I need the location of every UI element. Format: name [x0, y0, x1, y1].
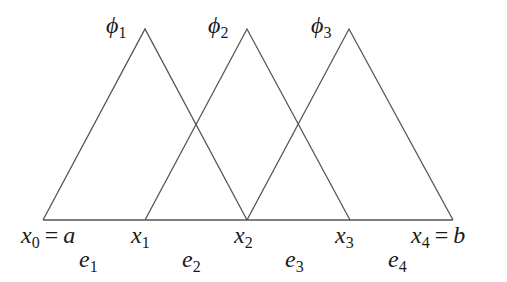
label-phi2: ϕ2: [208, 13, 228, 37]
e1-symbol: e: [79, 246, 90, 272]
x0-subscript: 0: [32, 234, 40, 251]
x0-value-a: a: [63, 222, 75, 248]
phi2-symbol: ϕ: [208, 12, 220, 38]
phi3-symbol: ϕ: [311, 12, 323, 38]
e4-symbol: e: [388, 246, 399, 272]
x4-subscript: 4: [422, 234, 430, 251]
x2-symbol: x: [234, 222, 245, 248]
hat-function-phi2: [145, 29, 350, 220]
x1-subscript: 1: [142, 234, 150, 251]
x0-symbol: x: [21, 222, 32, 248]
x4-value-b: b: [453, 222, 465, 248]
label-phi3: ϕ3: [311, 13, 331, 37]
phi1-subscript: 1: [118, 24, 126, 41]
x0-equals: =: [45, 222, 59, 248]
x3-subscript: 3: [346, 234, 354, 251]
x2-subscript: 2: [245, 234, 253, 251]
hat-function-phi3: [247, 29, 453, 220]
x4-symbol: x: [411, 222, 422, 248]
label-e1: e1: [79, 247, 98, 271]
label-x3: x3: [335, 223, 354, 247]
label-x4: x4=b: [411, 223, 465, 247]
e4-subscript: 4: [399, 258, 407, 275]
e3-subscript: 3: [296, 258, 304, 275]
e1-subscript: 1: [90, 258, 98, 275]
label-phi1: ϕ1: [106, 13, 126, 37]
hat-function-phi1: [43, 29, 247, 220]
label-x0: x0=a: [21, 223, 75, 247]
x1-symbol: x: [131, 222, 142, 248]
label-x2: x2: [234, 223, 253, 247]
phi1-symbol: ϕ: [106, 12, 118, 38]
label-e3: e3: [285, 247, 304, 271]
x3-symbol: x: [335, 222, 346, 248]
e2-symbol: e: [182, 246, 193, 272]
e3-symbol: e: [285, 246, 296, 272]
x4-equals: =: [435, 222, 449, 248]
phi3-subscript: 3: [323, 24, 331, 41]
label-e2: e2: [182, 247, 201, 271]
label-e4: e4: [388, 247, 407, 271]
label-x1: x1: [131, 223, 150, 247]
phi2-subscript: 2: [220, 24, 228, 41]
e2-subscript: 2: [193, 258, 201, 275]
